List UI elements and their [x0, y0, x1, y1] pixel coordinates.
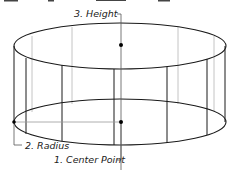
- height-point: [119, 43, 123, 47]
- radius-point: [12, 120, 16, 124]
- cylinder-diagram: 3. Height 2. Radius 1. Center Point: [0, 0, 236, 170]
- top-edge-residue: [4, 0, 170, 2]
- radius-label: 2. Radius: [25, 140, 69, 151]
- front-vertical-lines: [14, 46, 225, 145]
- height-label: 3. Height: [74, 8, 119, 19]
- center-point: [119, 120, 123, 124]
- height-leader: [117, 14, 121, 170]
- center-point-label: 1. Center Point: [54, 154, 126, 165]
